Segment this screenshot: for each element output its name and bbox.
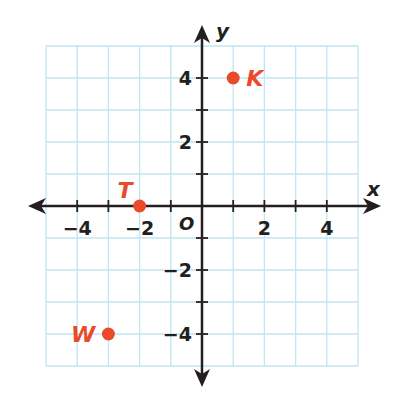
origin-label: O xyxy=(179,213,194,234)
x-tick-label: 4 xyxy=(320,217,333,239)
x-tick-label: 2 xyxy=(258,217,271,239)
x-tick-label: −4 xyxy=(63,217,92,239)
y-tick-label: −4 xyxy=(163,323,192,345)
y-tick-label: 2 xyxy=(179,131,192,153)
point-t xyxy=(133,200,146,213)
point-label-k: K xyxy=(246,66,265,91)
point-label-w: W xyxy=(71,322,97,347)
point-w xyxy=(102,328,115,341)
y-tick-label: 4 xyxy=(179,67,192,89)
x-axis-label: x xyxy=(366,177,381,201)
point-label-t: T xyxy=(118,178,135,203)
point-k xyxy=(227,72,240,85)
coordinate-plane: −4−22442−2−4 x y O KTW xyxy=(0,0,403,407)
y-tick-label: −2 xyxy=(163,259,192,281)
y-axis-label: y xyxy=(216,19,230,43)
x-tick-label: −2 xyxy=(125,217,154,239)
